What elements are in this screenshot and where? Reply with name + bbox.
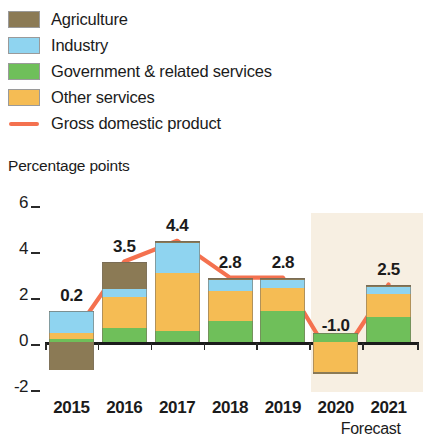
y-axis-tick-label-neg2: -2 [2, 377, 28, 397]
y-axis-tick-mark [31, 344, 40, 346]
bar-segment-other-2019 [260, 288, 305, 311]
data-label-2021: 2.5 [359, 260, 419, 280]
x-axis-tick-mark [417, 343, 419, 350]
y-axis-tick-label-4: 4 [2, 239, 28, 259]
legend-item-other-services: Other services [8, 86, 155, 108]
legend-swatch-government-icon [8, 63, 40, 80]
legend-label-gdp: Gross domestic product [51, 114, 221, 133]
x-axis-tick-mark [151, 343, 153, 350]
bar-segment-government-2017 [155, 331, 200, 343]
legend-label-agriculture: Agriculture [51, 10, 128, 29]
bar-segment-industry-2017 [155, 243, 200, 273]
bar-segment-government-2018 [208, 321, 253, 342]
y-axis-tick-label-2: 2 [2, 285, 28, 305]
legend-item-government: Government & related services [8, 60, 272, 82]
x-axis-tick-mark [45, 343, 47, 350]
x-axis-tick-mark [309, 343, 311, 350]
bar-top-cap [208, 278, 253, 279]
bar-top-cap [155, 241, 200, 242]
bar-segment-other-2016 [102, 297, 147, 328]
x-axis-label-2021: 2021 [362, 398, 416, 418]
y-axis-tick-mark [31, 390, 40, 392]
x-axis-tick-mark [362, 343, 364, 350]
legend-item-gdp: Gross domestic product [8, 112, 221, 134]
y-axis-tick-label-6: 6 [2, 193, 28, 213]
data-label-2018: 2.8 [200, 253, 260, 273]
legend-item-industry: Industry [8, 34, 108, 56]
data-label-2019: 2.8 [253, 253, 313, 273]
x-axis-tick-mark [256, 343, 258, 350]
bar-2019[interactable] [260, 185, 305, 400]
bar-segment-other-2015 [49, 333, 94, 339]
x-axis-label-2018: 2018 [203, 398, 257, 418]
y-axis-title: Percentage points [8, 157, 130, 175]
bar-top-cap [260, 278, 305, 279]
bar-segment-industry-2021 [366, 287, 411, 294]
bar-segment-other-2018 [208, 291, 253, 321]
y-axis-tick-mark [31, 252, 40, 254]
legend-label-industry: Industry [51, 36, 108, 55]
legend-label-other-services: Other services [51, 88, 155, 107]
chart-plot-area: -202460.23.54.42.82.8-1.02.5 [0, 185, 425, 400]
bar-segment-other-2021 [366, 294, 411, 317]
legend-item-agriculture: Agriculture [8, 8, 128, 30]
y-axis-tick-mark [31, 206, 40, 208]
x-axis-label-2020: 2020 [309, 398, 363, 418]
legend-swatch-industry-icon [8, 37, 40, 54]
bar-segment-agriculture-2015 [49, 342, 94, 370]
x-axis-label-2019: 2019 [256, 398, 310, 418]
bar-segment-agriculture-2016 [102, 262, 147, 290]
data-label-2020: -1.0 [306, 316, 366, 336]
bar-top-cap [49, 311, 94, 312]
bar-segment-industry-2019 [260, 280, 305, 288]
bar-top-cap [102, 262, 147, 263]
forecast-note-label: Forecast [316, 420, 425, 438]
y-axis-tick-mark [31, 298, 40, 300]
data-label-2017: 4.4 [147, 216, 207, 236]
x-axis-tick-mark [98, 343, 100, 350]
bar-2016[interactable] [102, 185, 147, 400]
legend-swatch-other-services-icon [8, 89, 40, 106]
data-label-2015: 0.2 [41, 286, 101, 306]
x-axis-labels: 2015201620172018201920202021 [0, 398, 425, 422]
chart-legend: Agriculture Industry Government & relate… [0, 0, 425, 140]
bar-segment-government-2019 [260, 311, 305, 342]
bar-segment-industry-2016 [102, 289, 147, 297]
bar-2018[interactable] [208, 185, 253, 400]
legend-swatch-agriculture-icon [8, 11, 40, 28]
bar-segment-other-2020 [313, 342, 358, 372]
bar-segment-government-2016 [102, 328, 147, 342]
bar-segment-other-2017 [155, 273, 200, 331]
x-axis-label-2016: 2016 [97, 398, 151, 418]
data-label-2016: 3.5 [94, 237, 154, 257]
x-axis-label-2017: 2017 [150, 398, 204, 418]
bar-segment-industry-2015 [49, 311, 94, 333]
bar-segment-government-2021 [366, 317, 411, 342]
bar-2020[interactable] [313, 185, 358, 400]
bar-2021[interactable] [366, 185, 411, 400]
legend-label-government: Government & related services [51, 62, 272, 81]
x-axis-tick-mark [204, 343, 206, 350]
legend-line-gdp-icon [8, 115, 40, 132]
bar-segment-agriculture-2020 [313, 372, 358, 374]
y-axis-tick-label-0: 0 [2, 331, 28, 351]
bar-top-cap [366, 285, 411, 286]
bar-segment-industry-2018 [208, 280, 253, 292]
x-axis-label-2015: 2015 [44, 398, 98, 418]
